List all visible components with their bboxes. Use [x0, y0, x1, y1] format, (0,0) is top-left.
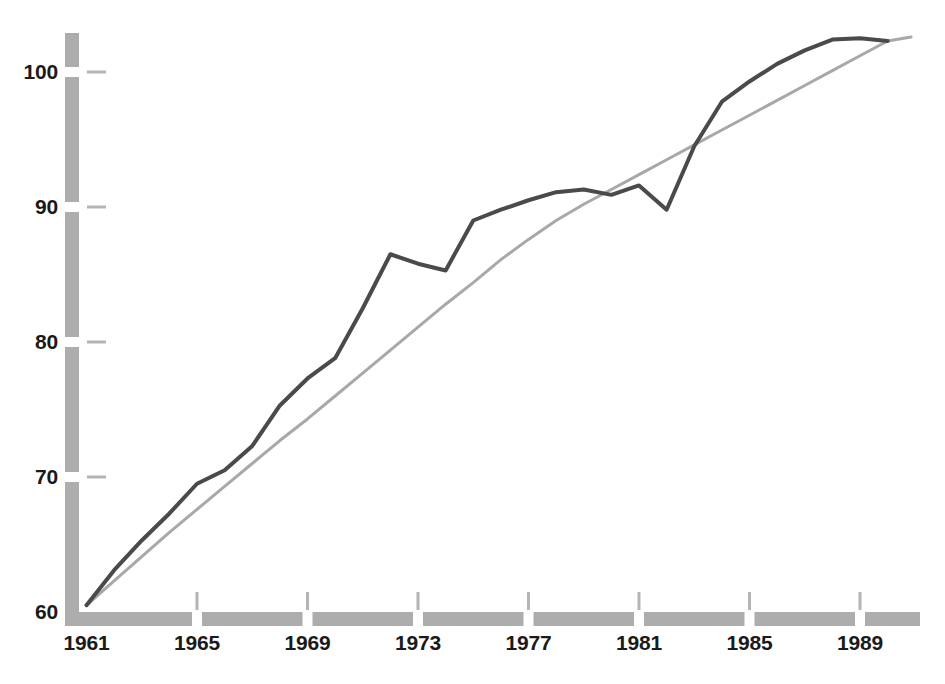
line-chart-plot	[0, 0, 945, 684]
x-tick-label-1977: 1977	[479, 632, 579, 653]
y-tick-label-80: 80	[35, 331, 58, 352]
y-tick-label-100: 100	[24, 61, 58, 82]
x-tick-label-1989: 1989	[810, 632, 910, 653]
y-axis-bar	[65, 33, 79, 626]
x-tick-label-1969: 1969	[258, 632, 358, 653]
x-tick-label-1961: 1961	[37, 632, 137, 653]
y-axis-tick-marks	[87, 71, 106, 479]
x-tick-label-1973: 1973	[368, 632, 468, 653]
y-tick-label-60: 60	[35, 601, 58, 622]
x-tick-label-1965: 1965	[147, 632, 247, 653]
x-tick-label-1985: 1985	[700, 632, 800, 653]
trend-line	[87, 37, 912, 605]
x-axis-tick-marks	[196, 592, 862, 610]
x-axis-bar	[65, 612, 920, 626]
y-tick-label-70: 70	[35, 466, 58, 487]
chart-container: 60708090100 1961196519691973197719811985…	[0, 0, 945, 684]
x-tick-label-1981: 1981	[589, 632, 689, 653]
data-line-observed	[87, 38, 888, 605]
y-tick-label-90: 90	[35, 196, 58, 217]
